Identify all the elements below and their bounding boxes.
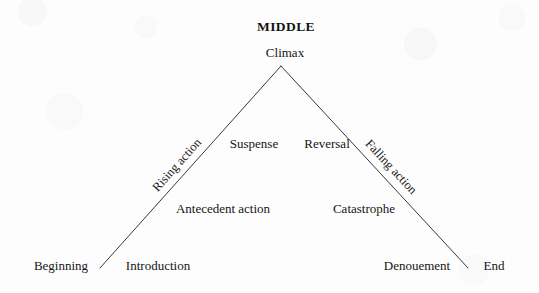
label-middle: MIDDLE <box>257 20 315 34</box>
label-denouement: Denouement <box>384 259 450 272</box>
label-climax: Climax <box>266 46 304 59</box>
label-introduction: Introduction <box>126 259 190 272</box>
label-catastrophe: Catastrophe <box>333 202 395 215</box>
label-suspense: Suspense <box>230 137 278 150</box>
label-end: End <box>484 259 505 272</box>
rising-action-line <box>100 66 281 268</box>
freytag-pyramid-diagram: MIDDLE Climax Rising action Falling acti… <box>0 0 539 293</box>
label-reversal: Reversal <box>304 137 349 150</box>
falling-action-line <box>281 66 468 268</box>
label-antecedent-action: Antecedent action <box>176 202 270 215</box>
label-beginning: Beginning <box>34 259 88 272</box>
